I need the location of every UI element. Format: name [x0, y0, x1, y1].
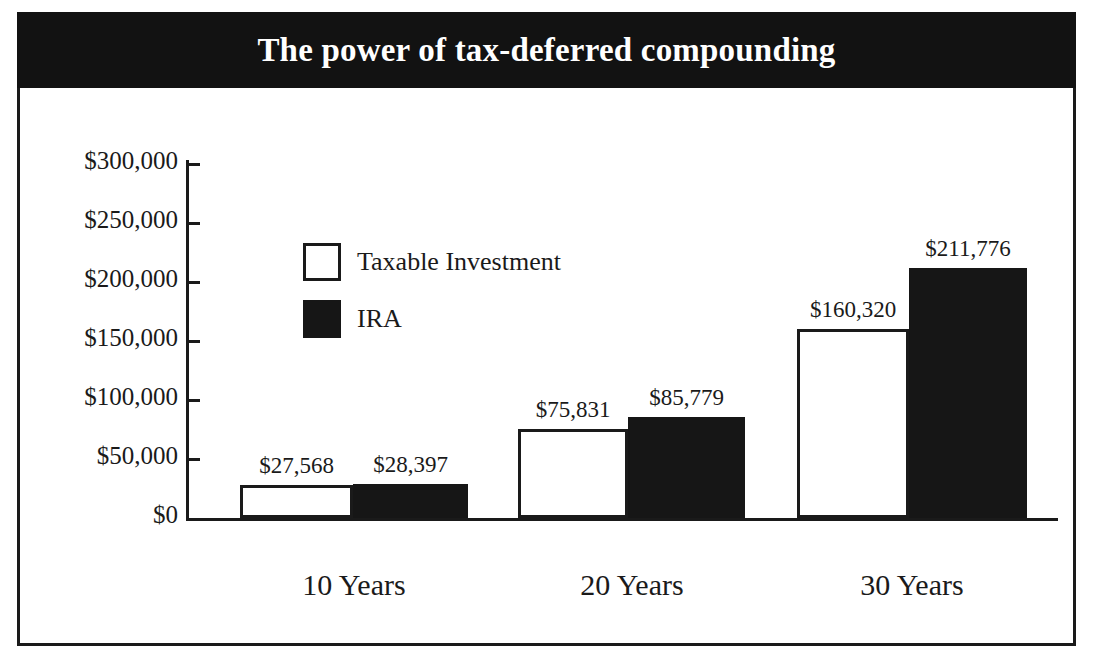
- legend-label-ira: IRA: [357, 304, 402, 334]
- bar-taxable: [240, 485, 353, 518]
- y-tick-mark: [189, 222, 200, 225]
- bar-taxable: [518, 429, 628, 518]
- legend-swatch-ira-icon: [303, 300, 341, 338]
- bar-ira: [909, 268, 1027, 518]
- bar-value-label: $85,779: [587, 385, 787, 411]
- plot-area: $0$50,000$100,000$150,000$200,000$250,00…: [0, 0, 1100, 664]
- legend-item-taxable: Taxable Investment: [303, 243, 561, 281]
- bar-taxable: [797, 329, 909, 518]
- bar-value-label: $28,397: [311, 452, 511, 478]
- category-label: 20 Years: [502, 568, 762, 602]
- y-tick-mark: [189, 340, 200, 343]
- y-tick-mark: [189, 163, 200, 166]
- bar-ira: [353, 484, 468, 518]
- chart-legend: Taxable Investment IRA: [303, 243, 561, 357]
- bar-value-label: $211,776: [868, 236, 1068, 262]
- y-tick-mark: [189, 399, 200, 402]
- legend-item-ira: IRA: [303, 300, 561, 338]
- category-label: 30 Years: [782, 568, 1042, 602]
- legend-swatch-taxable-icon: [303, 243, 341, 281]
- bar-ira: [628, 417, 745, 518]
- legend-label-taxable: Taxable Investment: [357, 247, 561, 277]
- x-axis-line: [186, 518, 1058, 521]
- chart-figure: The power of tax-deferred compounding $0…: [0, 0, 1100, 664]
- category-label: 10 Years: [224, 568, 484, 602]
- y-tick-mark: [189, 281, 200, 284]
